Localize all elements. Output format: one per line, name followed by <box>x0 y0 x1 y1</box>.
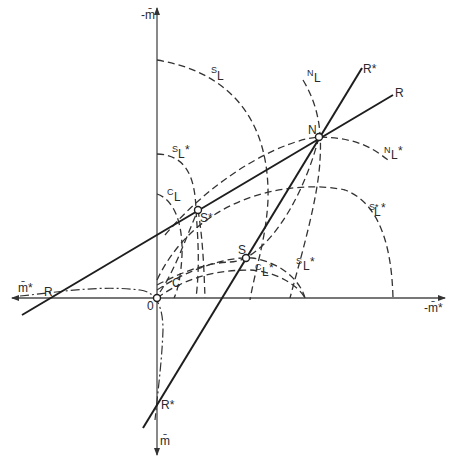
label-S-star: S* <box>200 211 213 225</box>
svg-text:*: * <box>310 255 315 269</box>
svg-text:L: L <box>303 259 310 273</box>
svg-text:N: N <box>307 68 314 78</box>
svg-text:*: * <box>185 143 190 157</box>
point-origin <box>154 295 161 302</box>
label-nL: N L <box>307 68 321 85</box>
label-C: C <box>172 276 181 290</box>
label-line-R-star: R* <box>363 62 377 76</box>
svg-text:S: S <box>296 256 302 266</box>
diagram-canvas: -m̄ m̄ m̄* -m̄* 0 N S S* C R R* R R* S L… <box>0 0 462 465</box>
line-R <box>22 95 393 315</box>
line-R-star <box>143 68 362 428</box>
svg-text:N: N <box>384 145 391 155</box>
origin-label: 0 <box>147 299 154 313</box>
svg-text:*: * <box>269 261 274 275</box>
svg-text:*: * <box>381 201 386 215</box>
label-sL-star-upper: S L * <box>172 143 190 161</box>
svg-text:*: * <box>398 144 403 158</box>
label-R-left: R <box>44 285 53 299</box>
curve-dashdot <box>20 288 163 420</box>
label-N: N <box>308 123 317 137</box>
axis-label-down: m̄ <box>160 434 170 448</box>
axis-label-up: -m̄ <box>141 8 155 22</box>
axis-label-left: m̄* <box>18 281 33 295</box>
svg-text:C: C <box>167 187 174 197</box>
label-sL-star-lower: S L * <box>296 255 315 273</box>
svg-text:L: L <box>174 190 181 204</box>
curve-sL-star-star <box>157 187 393 298</box>
svg-text:L: L <box>374 205 381 219</box>
label-line-R: R <box>395 86 404 100</box>
axis-label-right: -m̄* <box>424 301 443 315</box>
curve-nL-star <box>165 137 388 235</box>
svg-text:C: C <box>255 262 262 272</box>
svg-text:L: L <box>262 265 269 279</box>
svg-text:L: L <box>178 147 185 161</box>
svg-text:L: L <box>217 69 224 83</box>
label-cL-star: C L * <box>255 261 274 279</box>
svg-text:L: L <box>314 71 321 85</box>
label-sL-star-star: S* L * <box>369 201 386 219</box>
svg-text:L: L <box>391 148 398 162</box>
label-R-star-bottom: R* <box>161 398 175 412</box>
label-S: S <box>238 243 246 257</box>
